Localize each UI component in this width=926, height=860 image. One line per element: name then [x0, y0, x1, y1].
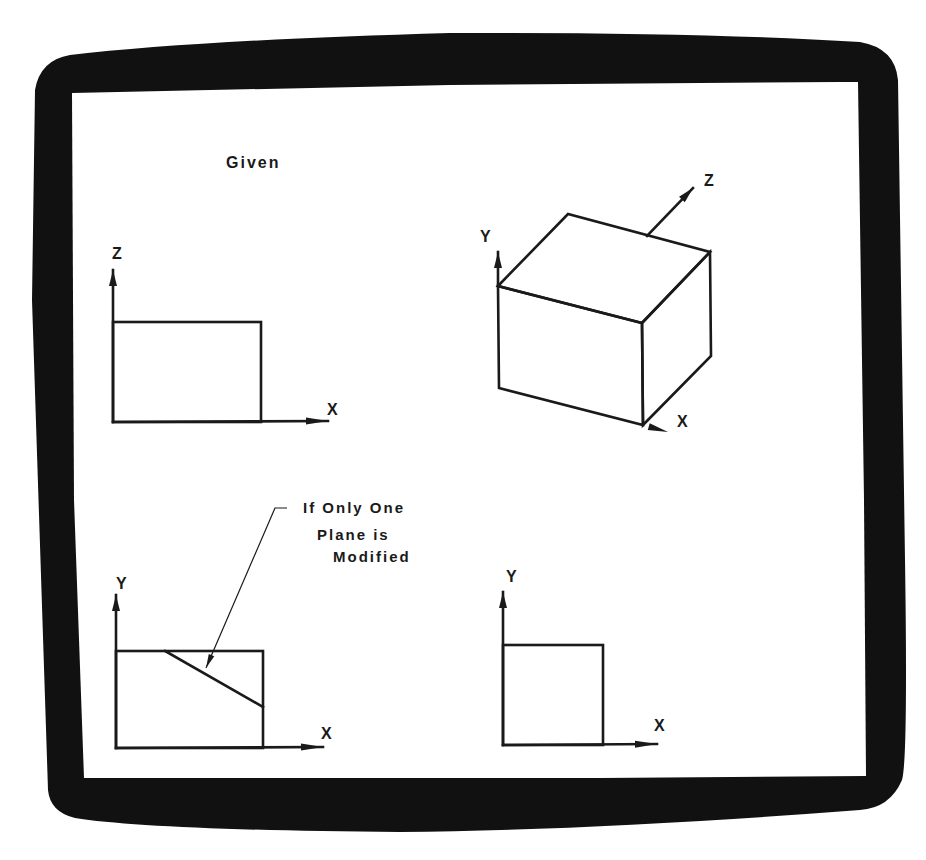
x-axis-label: X	[327, 401, 338, 418]
annotation-line-3: Modified	[333, 548, 411, 565]
x-axis-label: X	[321, 725, 332, 742]
x-axis-label: X	[654, 717, 665, 734]
y-axis-label: Y	[116, 575, 127, 592]
drawing-canvas: Given Z X Y Z X Y X If Onl	[0, 0, 926, 860]
given-label: Given	[226, 154, 280, 171]
cube-y-label: Y	[480, 228, 491, 245]
z-axis-label: Z	[112, 245, 122, 262]
screen-area	[72, 82, 866, 778]
cube-z-label: Z	[704, 172, 714, 189]
annotation-line-1: If Only One	[303, 499, 405, 516]
annotation-line-2: Plane is	[317, 526, 390, 543]
y-axis-label: Y	[506, 568, 517, 585]
cube-x-label: X	[677, 413, 688, 430]
